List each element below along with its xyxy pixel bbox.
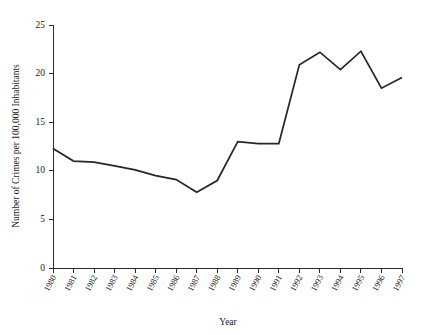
y-axis-tick-label: 20	[36, 68, 46, 78]
x-axis-tick-label: 1996	[370, 273, 387, 293]
line-chart: 0510152025 19801981198219831984198519861…	[0, 0, 441, 335]
x-axis-title: Year	[219, 317, 237, 327]
x-axis-ticks	[53, 268, 402, 273]
y-axis-tick-label: 10	[36, 165, 46, 175]
x-axis-tick-label: 1986	[165, 273, 182, 293]
x-axis-tick-label: 1993	[308, 273, 325, 293]
x-axis-tick-label: 1982	[83, 273, 100, 293]
y-axis-tick-labels: 0510152025	[36, 20, 46, 273]
y-axis-tick-label: 0	[40, 263, 45, 273]
y-axis-tick-label: 25	[36, 20, 46, 30]
x-axis-tick-labels: 1980198119821983198419851986198719881989…	[41, 273, 407, 293]
x-axis-tick-label: 1985	[144, 273, 161, 293]
y-axis-tick-label: 15	[36, 117, 46, 127]
chart-canvas: 0510152025 19801981198219831984198519861…	[0, 0, 441, 335]
x-axis-tick-label: 1992	[288, 273, 305, 293]
y-axis-title: Number of Crimes per 100,000 Inhabitants	[11, 64, 21, 228]
x-axis-tick-label: 1981	[62, 273, 79, 293]
y-axis-ticks	[49, 25, 53, 268]
y-axis-tick-label: 5	[40, 214, 45, 224]
x-axis-tick-label: 1989	[226, 273, 243, 293]
x-axis-tick-label: 1984	[124, 273, 141, 293]
x-axis-tick-label: 1997	[390, 273, 407, 293]
x-axis-tick-label: 1983	[103, 273, 120, 293]
x-axis-tick-label: 1990	[247, 273, 264, 293]
x-axis-tick-label: 1991	[267, 273, 284, 293]
x-axis-tick-label: 1994	[329, 273, 346, 293]
crime-rate-line	[53, 51, 402, 192]
x-axis-tick-label: 1987	[185, 273, 202, 293]
x-axis-tick-label: 1988	[206, 273, 223, 293]
x-axis-tick-label: 1980	[41, 273, 58, 293]
x-axis-tick-label: 1995	[349, 273, 366, 293]
